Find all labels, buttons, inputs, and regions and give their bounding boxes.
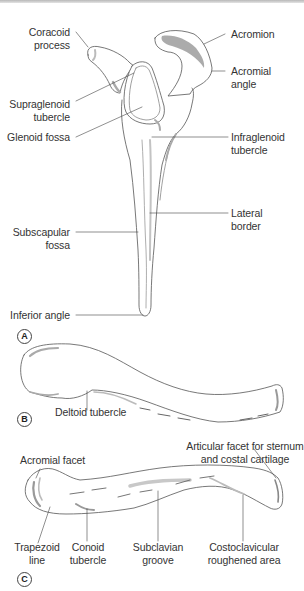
panel-badge-b: B <box>17 412 32 427</box>
label-line: border <box>231 220 262 233</box>
label-acromial-facet: Acromial facet <box>20 454 85 467</box>
label-line: Conoid <box>66 541 110 554</box>
label-subclavian-groove: Subclavian groove <box>130 541 186 567</box>
label-line: roughened area <box>204 554 284 567</box>
label-line: Costoclavicular <box>204 541 284 554</box>
label-line: Articular facet for sternum <box>186 440 304 453</box>
label-acromial-angle: Acromial angle <box>231 65 271 91</box>
label-articular-facet: Articular facet for sternum and costal c… <box>186 440 304 466</box>
label-line: Subclavian <box>130 541 186 554</box>
label-lateral-border: Lateral border <box>231 207 262 233</box>
label-line: line <box>14 554 60 567</box>
clavicle-inferior-drawing <box>25 465 283 514</box>
label-acromion: Acromion <box>231 28 275 41</box>
label-line: and costal cartilage <box>186 453 304 466</box>
label-costoclavicular-area: Costoclavicular roughened area <box>204 541 284 567</box>
label-deltoid-tubercle: Deltoid tubercle <box>55 406 126 419</box>
label-trapezoid-line: Trapezoid line <box>14 541 60 567</box>
label-supraglenoid-tubercle: Supraglenoid tubercle <box>0 98 70 124</box>
label-inferior-angle: Inferior angle <box>0 309 70 322</box>
scapula-drawing <box>88 31 212 316</box>
label-line: tubercle <box>66 554 110 567</box>
label-line: Trapezoid <box>14 541 60 554</box>
panel-badge-c: C <box>17 572 32 587</box>
label-line: Supraglenoid <box>0 98 70 111</box>
label-line: Subscapular <box>0 226 70 239</box>
label-line: angle <box>231 78 271 91</box>
label-line: Coracoid <box>20 26 70 39</box>
label-glenoid-fossa: Glenoid fossa <box>0 131 70 144</box>
label-line: groove <box>130 554 186 567</box>
label-line: fossa <box>0 239 70 252</box>
panel-badge-a: A <box>17 329 32 344</box>
label-line: Acromial <box>231 65 271 78</box>
label-line: Lateral <box>231 207 262 220</box>
label-line: tubercle <box>0 111 70 124</box>
label-line: process <box>20 39 70 52</box>
label-conoid-tubercle: Conoid tubercle <box>66 541 110 567</box>
label-line: tubercle <box>231 144 285 157</box>
label-subscapular-fossa: Subscapular fossa <box>0 226 70 252</box>
label-line: Infraglenoid <box>231 131 285 144</box>
label-coracoid-process: Coracoid process <box>20 26 70 52</box>
label-infraglenoid-tubercle: Infraglenoid tubercle <box>231 131 285 157</box>
